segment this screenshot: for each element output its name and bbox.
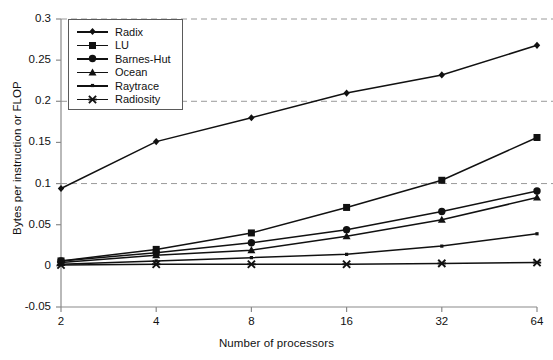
diamond-marker [153, 138, 159, 145]
diamond-marker [89, 28, 95, 35]
series-radiosity [57, 259, 541, 269]
series-line [61, 191, 537, 261]
legend-item-ocean[interactable]: Ocean [69, 66, 182, 80]
data-point-cross [342, 261, 350, 268]
legend-item-label: Raytrace [115, 80, 159, 92]
data-point-square [89, 42, 96, 49]
chart-legend: RadixLUBarnes-HutOceanRaytraceRadiosity [68, 19, 183, 110]
y-tick-label: -0.05 [7, 300, 51, 312]
triangle-marker [533, 193, 541, 200]
data-point-dot [91, 84, 94, 87]
x-tick-label: 2 [41, 315, 81, 327]
legend-marker-triangle-icon [77, 66, 108, 79]
dot-marker [440, 245, 443, 248]
legend-item-label: Radiosity [115, 93, 160, 105]
data-point-circle [438, 208, 445, 215]
data-point-diamond [153, 138, 159, 145]
dot-marker [91, 84, 94, 87]
diamond-marker [343, 89, 349, 96]
data-point-dot [345, 253, 348, 256]
y-tick-label: 0.15 [7, 135, 51, 147]
circle-marker [438, 208, 445, 215]
y-tick-label: 0.2 [7, 94, 51, 106]
series-raytrace [59, 232, 538, 266]
data-point-diamond [534, 42, 540, 49]
data-point-square [438, 177, 445, 184]
square-marker [534, 134, 541, 141]
square-marker [438, 177, 445, 184]
data-point-circle [248, 239, 255, 246]
x-axis-title: Number of processors [0, 337, 553, 349]
data-point-diamond [89, 28, 95, 35]
data-point-diamond [343, 89, 349, 96]
square-marker [248, 229, 255, 236]
legend-marker-cross-icon [77, 93, 108, 106]
legend-item-lu[interactable]: LU [69, 39, 182, 53]
data-point-square [248, 229, 255, 236]
legend-marker-svg [77, 39, 108, 52]
dot-marker [345, 253, 348, 256]
triangle-marker [89, 68, 97, 75]
data-point-triangle [533, 193, 541, 200]
data-point-circle [89, 55, 96, 62]
legend-item-label: LU [115, 39, 129, 51]
data-point-diamond [248, 114, 254, 121]
x-tick-label: 64 [517, 315, 553, 327]
legend-marker-svg [77, 66, 108, 79]
data-point-triangle [89, 68, 97, 75]
series-lu [58, 134, 541, 264]
chart-container: Bytes per instruction or FLOP Number of … [0, 0, 553, 360]
legend-marker-circle-icon [77, 52, 108, 65]
data-point-dot [535, 232, 538, 235]
legend-marker-dot-icon [77, 79, 108, 92]
x-tick-label: 4 [136, 315, 176, 327]
diamond-marker [248, 114, 254, 121]
legend-marker-svg [77, 93, 108, 106]
data-point-cross [88, 96, 96, 103]
series-line [61, 263, 537, 265]
square-marker [89, 42, 96, 49]
x-tick-label: 8 [231, 315, 271, 327]
y-tick-label: 0.1 [7, 177, 51, 189]
dot-marker [535, 232, 538, 235]
legend-marker-svg [77, 79, 108, 92]
data-point-dot [250, 256, 253, 259]
diamond-marker [534, 42, 540, 49]
data-point-cross [533, 259, 541, 266]
x-tick-label: 32 [422, 315, 462, 327]
data-point-square [343, 204, 350, 211]
diamond-marker [58, 185, 64, 192]
legend-item-label: Radix [115, 26, 143, 38]
circle-marker [248, 239, 255, 246]
legend-item-radix[interactable]: Radix [69, 25, 182, 39]
diamond-marker [439, 71, 445, 78]
legend-marker-svg [77, 52, 108, 65]
legend-item-label: Ocean [115, 66, 147, 78]
data-point-diamond [439, 71, 445, 78]
y-tick-label: 0.05 [7, 218, 51, 230]
y-tick-label: 0.3 [7, 12, 51, 24]
square-marker [343, 204, 350, 211]
series-line [61, 234, 537, 264]
dot-marker [250, 256, 253, 259]
legend-marker-square-icon [77, 39, 108, 52]
legend-marker-diamond-icon [77, 25, 108, 38]
y-tick-label: 0 [7, 259, 51, 271]
data-point-square [534, 134, 541, 141]
data-point-cross [438, 260, 446, 267]
data-point-cross [247, 261, 255, 268]
legend-item-label: Barnes-Hut [115, 53, 171, 65]
legend-marker-svg [77, 25, 108, 38]
legend-item-barnes-hut[interactable]: Barnes-Hut [69, 52, 182, 66]
x-tick-label: 16 [327, 315, 367, 327]
data-point-diamond [58, 185, 64, 192]
legend-item-radiosity[interactable]: Radiosity [69, 93, 182, 107]
circle-marker [89, 55, 96, 62]
data-point-dot [440, 245, 443, 248]
y-tick-label: 0.25 [7, 53, 51, 65]
legend-item-raytrace[interactable]: Raytrace [69, 79, 182, 93]
